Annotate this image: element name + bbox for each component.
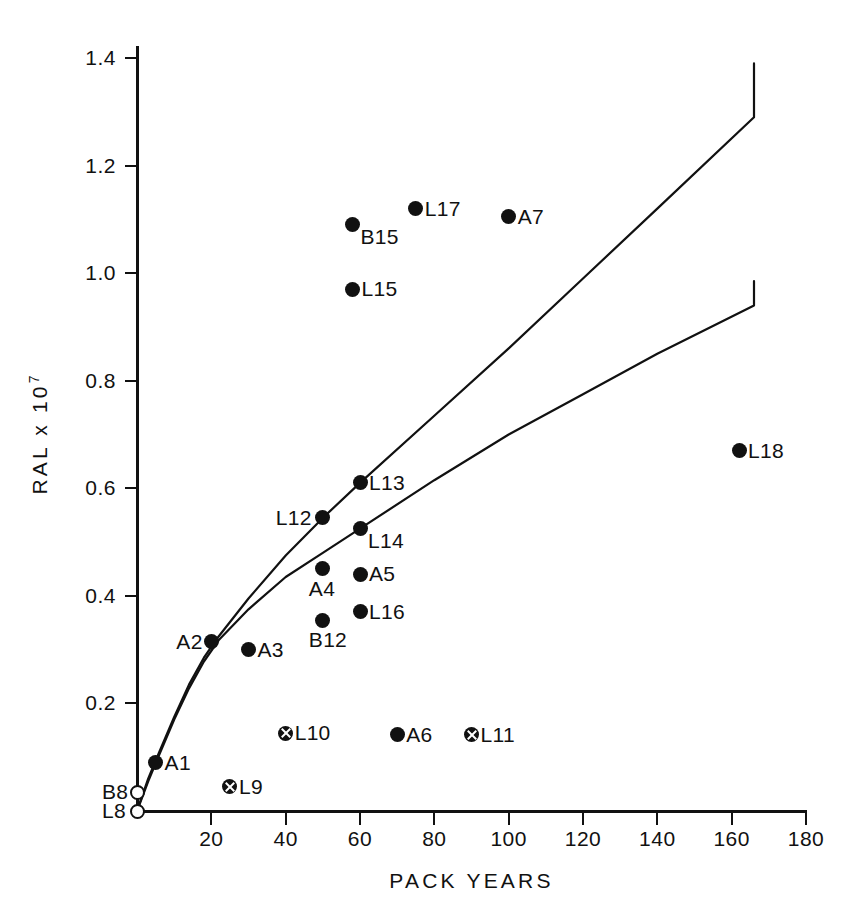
data-point-label-b12: B12 <box>309 629 347 650</box>
y-axis-title: RAL x 107 <box>26 310 52 560</box>
x-tick-120 <box>582 813 584 825</box>
data-point-label-l18: L18 <box>748 440 784 461</box>
x-tick-20 <box>210 813 212 825</box>
y-tick-0.8 <box>125 380 136 382</box>
data-point-label-l13: L13 <box>369 472 405 493</box>
data-point-l12[interactable] <box>315 510 330 525</box>
data-point-b12[interactable] <box>315 613 330 628</box>
x-tick-180 <box>805 813 807 825</box>
x-tick-label-40: 40 <box>256 828 316 849</box>
data-point-label-a1: A1 <box>165 752 191 773</box>
x-tick-label-20: 20 <box>181 828 241 849</box>
x-tick-label-140: 140 <box>627 828 687 849</box>
x-axis-title: PACK YEARS <box>136 869 807 893</box>
y-axis-title-exponent: 7 <box>26 376 42 384</box>
data-point-label-b15: B15 <box>361 226 399 247</box>
y-tick-0.2 <box>125 702 136 704</box>
data-point-label-a5: A5 <box>369 563 395 584</box>
x-tick-100 <box>508 813 510 825</box>
lower-curve <box>137 281 754 811</box>
x-tick-60 <box>359 813 361 825</box>
data-point-b8[interactable] <box>130 785 145 800</box>
y-tick-label-0.6: 0.6 <box>0 477 120 498</box>
data-point-l9[interactable] <box>222 779 237 794</box>
data-point-l15[interactable] <box>345 282 360 297</box>
upper-curve <box>137 63 754 811</box>
data-point-l13[interactable] <box>353 475 368 490</box>
x-tick-label-60: 60 <box>330 828 390 849</box>
data-point-a1[interactable] <box>148 755 163 770</box>
x-tick-label-120: 120 <box>553 828 613 849</box>
data-point-a5[interactable] <box>353 567 368 582</box>
data-point-label-l12: L12 <box>276 507 312 528</box>
data-point-l17[interactable] <box>408 201 423 216</box>
data-point-label-a7: A7 <box>518 206 544 227</box>
data-point-l14[interactable] <box>353 521 368 536</box>
y-tick-label-0.4: 0.4 <box>0 585 120 606</box>
x-tick-80 <box>433 813 435 825</box>
x-tick-label-180: 180 <box>776 828 836 849</box>
y-tick-1.2 <box>125 165 136 167</box>
data-point-l18[interactable] <box>732 443 747 458</box>
data-point-l8[interactable] <box>130 804 145 819</box>
data-point-label-a3: A3 <box>258 639 284 660</box>
chart-canvas: 0.20.40.60.81.01.21.4 204060801001201401… <box>0 0 849 920</box>
x-tick-label-160: 160 <box>702 828 762 849</box>
data-point-label-l16: L16 <box>369 601 405 622</box>
data-point-a4[interactable] <box>315 561 330 576</box>
y-tick-0.6 <box>125 487 136 489</box>
x-axis-line <box>136 810 807 813</box>
data-point-a7[interactable] <box>501 209 516 224</box>
y-tick-1.0 <box>125 272 136 274</box>
data-point-label-l17: L17 <box>425 198 461 219</box>
data-point-label-l8: L8 <box>102 800 126 821</box>
x-tick-label-80: 80 <box>404 828 464 849</box>
data-point-label-l11: L11 <box>481 724 515 745</box>
x-tick-160 <box>731 813 733 825</box>
y-tick-label-1.4: 1.4 <box>0 47 120 68</box>
x-tick-40 <box>285 813 287 825</box>
data-point-label-a4: A4 <box>309 578 335 599</box>
y-tick-0.4 <box>125 595 136 597</box>
x-tick-label-100: 100 <box>479 828 539 849</box>
data-point-label-l14: L14 <box>368 530 404 551</box>
y-tick-label-1.0: 1.0 <box>0 262 120 283</box>
data-point-label-l15: L15 <box>362 278 398 299</box>
data-point-l10[interactable] <box>278 726 293 741</box>
data-point-label-a2: A2 <box>176 631 202 652</box>
data-point-l16[interactable] <box>353 604 368 619</box>
data-point-label-a6: A6 <box>406 724 432 745</box>
data-point-label-l9: L9 <box>239 776 263 797</box>
y-axis-title-text: RAL x 10 <box>28 383 51 494</box>
data-point-a2[interactable] <box>204 634 219 649</box>
data-point-a6[interactable] <box>390 727 405 742</box>
data-point-label-b8: B8 <box>102 781 128 802</box>
data-point-label-l10: L10 <box>295 722 331 743</box>
y-tick-label-1.2: 1.2 <box>0 155 120 176</box>
y-tick-label-0.2: 0.2 <box>0 692 120 713</box>
x-tick-140 <box>656 813 658 825</box>
data-point-b15[interactable] <box>345 217 360 232</box>
y-axis-line <box>136 46 139 814</box>
y-tick-label-0.8: 0.8 <box>0 370 120 391</box>
data-point-a3[interactable] <box>241 642 256 657</box>
y-tick-1.4 <box>125 57 136 59</box>
data-point-l11[interactable] <box>464 727 479 742</box>
